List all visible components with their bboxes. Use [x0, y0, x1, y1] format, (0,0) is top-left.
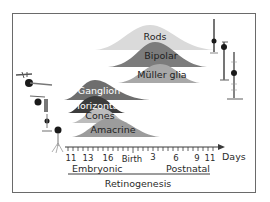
- amacrine-cell-icon: [52, 127, 63, 154]
- muller-glia-label: Müller glia: [137, 70, 186, 80]
- bipolar-label: Bipolar: [144, 51, 177, 61]
- tick-label-p11: 11: [205, 154, 216, 163]
- tick-label-p6: 6: [173, 154, 178, 163]
- rods-label: Rods: [144, 32, 167, 42]
- ganglion-cell-icon: [30, 96, 45, 106]
- axis-arrow-icon: [218, 144, 225, 150]
- tick-label-birth: Birth: [122, 155, 142, 164]
- rod-cell-icon: [210, 19, 218, 53]
- muller-glia-cell-icon: [227, 52, 243, 99]
- amacrine-label: Amacrine: [90, 125, 135, 135]
- horizontal-cell-icon: [16, 72, 52, 87]
- retinogenesis-label: Retinogenesis: [105, 179, 172, 189]
- postnatal-label: Postnatal: [166, 164, 210, 174]
- cones-label: Cones: [85, 111, 114, 121]
- tick-label-e16: 16: [103, 154, 114, 163]
- retinogenesis-diagram: [0, 0, 270, 202]
- axis-unit-label: Days: [222, 152, 246, 162]
- tick-label-p9: 9: [194, 154, 199, 163]
- tick-label-p3: 3: [150, 153, 155, 162]
- tick-label-e11: 11: [66, 154, 77, 163]
- ganglion-label: Ganglion: [78, 86, 120, 96]
- tick-label-e13: 13: [83, 154, 94, 163]
- cone-cell-icon: [42, 99, 52, 131]
- embryonic-label: Embryonic: [72, 164, 123, 174]
- bipolar-cell-icon: [220, 42, 229, 80]
